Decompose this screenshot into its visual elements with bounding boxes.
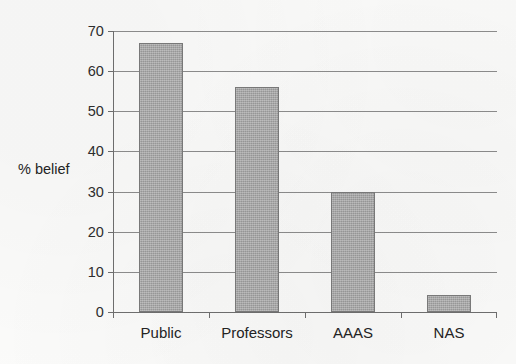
x-axis-tick-label: AAAS <box>305 325 401 340</box>
y-axis-tick <box>108 272 114 273</box>
y-axis-line <box>113 31 114 312</box>
x-axis-tick <box>401 312 402 318</box>
x-axis-tick-label: Professors <box>209 325 305 340</box>
x-axis-tick <box>209 312 210 318</box>
bar <box>331 192 375 312</box>
y-axis-tick <box>108 111 114 112</box>
x-axis-tick-label: NAS <box>401 325 497 340</box>
y-axis-tick <box>108 31 114 32</box>
x-axis-tick-label-group: PublicProfessorsAAASNAS <box>113 325 497 351</box>
x-axis-tick <box>113 312 114 318</box>
y-axis-tick <box>108 232 114 233</box>
plot-area <box>113 31 497 312</box>
y-axis-tick-label: 60 <box>88 64 104 79</box>
gridline <box>113 31 497 32</box>
x-axis-tick <box>305 312 306 318</box>
y-axis-tick-label: 0 <box>96 305 104 320</box>
y-axis-title: % belief <box>18 162 70 177</box>
y-axis-tick <box>108 71 114 72</box>
y-axis-tick-label: 30 <box>88 185 104 200</box>
bar <box>139 43 183 312</box>
bar <box>427 295 471 312</box>
x-axis-tick <box>496 312 497 318</box>
y-axis-tick <box>108 151 114 152</box>
x-axis-tick-label: Public <box>113 325 209 340</box>
y-axis-tick-label: 70 <box>88 24 104 39</box>
y-axis-tick <box>108 192 114 193</box>
bar-chart-figure: % belief 010203040506070 PublicProfessor… <box>0 0 516 364</box>
y-axis-tick-label: 50 <box>88 104 104 119</box>
y-axis-tick-label-group: 010203040506070 <box>70 31 104 312</box>
y-axis-tick-label: 10 <box>88 265 104 280</box>
bar <box>235 87 279 312</box>
y-axis-tick-label: 40 <box>88 144 104 159</box>
y-axis-tick-label: 20 <box>88 225 104 240</box>
